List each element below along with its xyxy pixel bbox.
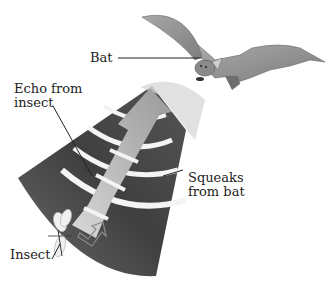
insect-label: Insect xyxy=(10,248,50,262)
echolocation-diagram: Bat Echo from insect Squeaks from bat In… xyxy=(0,0,335,293)
bat-label: Bat xyxy=(90,51,113,65)
squeaks-label: Squeaks from bat xyxy=(188,171,245,199)
bat-icon xyxy=(142,15,325,90)
echo-label: Echo from insect xyxy=(14,82,82,110)
